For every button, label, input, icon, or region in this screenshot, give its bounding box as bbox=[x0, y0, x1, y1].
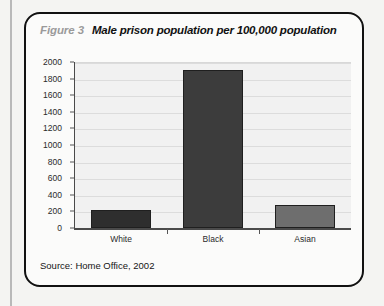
figure-number-label: Figure 3 bbox=[40, 23, 84, 37]
figure-title: Male prison population per 100,000 popul… bbox=[92, 23, 337, 37]
x-axis-tick-mark bbox=[167, 229, 168, 234]
bar bbox=[183, 70, 244, 228]
y-axis-tick-labels: 0200400600800100012001400160018002000 bbox=[40, 62, 66, 228]
source-note: Source: Home Office, 2002 bbox=[40, 260, 154, 272]
bar bbox=[91, 210, 152, 228]
y-axis-tick-label: 1000 bbox=[43, 141, 62, 150]
y-axis-tick-label: 400 bbox=[48, 191, 62, 200]
page-margin-rule bbox=[10, 0, 12, 306]
y-axis-tick-label: 0 bbox=[57, 224, 62, 233]
bar bbox=[275, 205, 336, 228]
bars-layer bbox=[75, 63, 351, 228]
y-axis-tick-label: 600 bbox=[48, 174, 62, 183]
x-axis-line bbox=[74, 228, 351, 230]
y-axis-tick-label: 1400 bbox=[43, 108, 62, 117]
plot-area bbox=[75, 62, 351, 228]
figure-container: Figure 3 Male prison population per 100,… bbox=[24, 12, 364, 287]
y-axis-tick-label: 1600 bbox=[43, 91, 62, 100]
figure-header: Figure 3 Male prison population per 100,… bbox=[40, 23, 350, 37]
x-axis-category-label: White bbox=[110, 234, 132, 245]
y-axis-tick-label: 1800 bbox=[43, 74, 62, 83]
x-axis-tick-mark bbox=[259, 229, 260, 234]
bar-chart: 0200400600800100012001400160018002000 Wh… bbox=[40, 62, 352, 247]
y-axis-tick-label: 200 bbox=[48, 207, 62, 216]
x-axis-category-label: Asian bbox=[294, 234, 315, 245]
y-axis-tick-label: 1200 bbox=[43, 124, 62, 133]
y-axis-tick-label: 800 bbox=[48, 157, 62, 166]
y-axis-tick-label: 2000 bbox=[43, 58, 62, 67]
x-axis-category-label: Black bbox=[203, 234, 224, 245]
